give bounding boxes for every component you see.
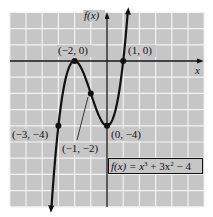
graph: f(x) x (−2, 0) (1, 0) (−3, −4) (0, −4) (… <box>0 0 213 217</box>
point-marker <box>55 123 61 129</box>
point-marker <box>72 58 78 64</box>
point-label-m1-m2: (−1, −2) <box>62 142 99 155</box>
point-marker <box>120 58 126 64</box>
point-label-m2-0: (−2, 0) <box>58 44 88 57</box>
point-marker <box>104 123 110 129</box>
x-axis-label: x <box>194 64 200 76</box>
curve-arrow-up-icon <box>125 7 131 15</box>
point-label-0-m4: (0, −4) <box>111 128 141 141</box>
point-marker <box>88 90 94 96</box>
point-label-m3-m4: (−3, −4) <box>12 128 49 141</box>
y-axis-label: f(x) <box>84 9 100 22</box>
formula-text: f(x) = x3 + 3x2 − 4 <box>111 160 192 173</box>
curve-arrow-down-icon <box>48 205 54 213</box>
point-label-1-0: (1, 0) <box>128 44 152 57</box>
